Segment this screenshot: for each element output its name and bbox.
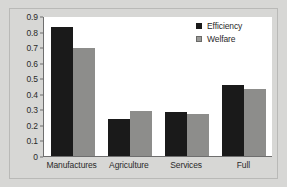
x-axis-label: Services — [170, 160, 202, 170]
y-axis-tick-label: 0.8 — [26, 28, 38, 38]
legend-item-efficiency: Efficiency — [196, 20, 272, 31]
y-axis-tick-label: 0.7 — [26, 43, 38, 53]
y-axis: 00.10.20.30.40.50.60.70.80.9 — [9, 17, 43, 158]
y-axis-tick-label: 0.5 — [26, 74, 38, 84]
legend-label: Welfare — [207, 34, 235, 44]
x-axis-labels: ManufacturesAgricultureServicesFull — [43, 160, 272, 178]
bar-welfare-manufactures — [73, 48, 95, 156]
bar-efficiency-services — [165, 112, 187, 156]
bar-welfare-services — [187, 114, 209, 156]
bar-welfare-agriculture — [130, 111, 152, 156]
chart-legend: EfficiencyWelfare — [196, 20, 272, 46]
y-axis-tick-label: 0.9 — [26, 12, 38, 22]
y-axis-tick-label: 0.2 — [26, 121, 38, 131]
bar-efficiency-full — [222, 85, 244, 156]
legend-swatch-icon — [196, 23, 202, 29]
chart-figure: 00.10.20.30.40.50.60.70.80.9 Manufacture… — [0, 0, 287, 187]
x-axis-label: Full — [237, 160, 250, 170]
legend-swatch-icon — [196, 36, 202, 42]
bar-welfare-full — [244, 89, 266, 156]
legend-item-welfare: Welfare — [196, 33, 272, 44]
y-axis-tick-label: 0 — [33, 152, 38, 162]
x-axis-label: Manufactures — [46, 160, 96, 170]
bar-efficiency-agriculture — [108, 119, 130, 156]
y-axis-tick-label: 0.4 — [26, 90, 38, 100]
y-axis-tick-label: 0.1 — [26, 136, 38, 146]
x-axis-label: Agriculture — [109, 160, 149, 170]
y-axis-tick-label: 0.3 — [26, 105, 38, 115]
bar-efficiency-manufactures — [51, 27, 73, 156]
y-axis-tick-label: 0.6 — [26, 59, 38, 69]
legend-label: Efficiency — [207, 21, 242, 31]
